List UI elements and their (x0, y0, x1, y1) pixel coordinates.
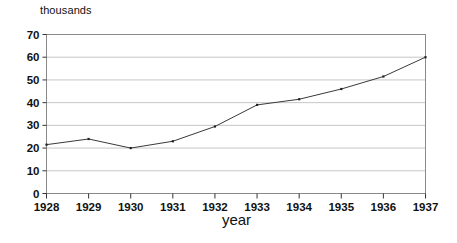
plot-canvas: 010203040506070 192819291930193119321933… (0, 0, 457, 243)
y-tick-label-70: 70 (27, 29, 40, 41)
y-tick-label-0: 0 (33, 188, 39, 200)
data-point-1937 (424, 56, 426, 58)
data-point-1933 (256, 104, 258, 106)
x-axis-ticks: 1928192919301931193219331934193519361937 (34, 194, 439, 213)
data-point-1932 (214, 125, 216, 127)
y-tick-label-50: 50 (27, 74, 40, 86)
plot-border (47, 35, 426, 194)
plot-frame (47, 35, 426, 194)
data-point-1930 (130, 147, 132, 149)
x-axis-title: year (0, 211, 457, 229)
y-tick-label-60: 60 (27, 51, 40, 63)
data-point-1928 (45, 144, 47, 146)
x-axis-title-text: year (222, 211, 251, 228)
data-point-1935 (340, 88, 342, 90)
line-chart: thousands 010203040506070 19281929193019… (0, 0, 457, 243)
y-tick-label-20: 20 (27, 142, 40, 154)
data-point-1931 (172, 140, 174, 142)
data-point-1929 (88, 138, 90, 140)
data-point-1936 (382, 75, 384, 77)
data-point-1934 (298, 98, 300, 100)
gridlines (47, 57, 426, 171)
y-tick-label-10: 10 (27, 165, 40, 177)
y-axis-ticks: 010203040506070 (27, 29, 47, 200)
y-tick-label-40: 40 (27, 97, 40, 109)
y-tick-label-30: 30 (27, 119, 40, 131)
